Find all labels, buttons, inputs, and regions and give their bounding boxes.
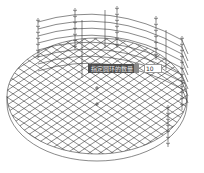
diamond-grid — [0, 0, 204, 173]
dynamic-input-prompt: 指定圆环的数量 10 — [88, 64, 162, 73]
cad-viewport[interactable]: 指定圆环的数量 10 — [0, 0, 204, 173]
plate-outline — [7, 38, 187, 154]
mesh-drawing — [0, 0, 204, 173]
prompt-label: 指定圆环的数量 — [88, 64, 134, 73]
prompt-separator — [134, 64, 139, 73]
ring-count-input[interactable]: 10 — [144, 64, 162, 73]
vertical-posts — [36, 6, 184, 147]
